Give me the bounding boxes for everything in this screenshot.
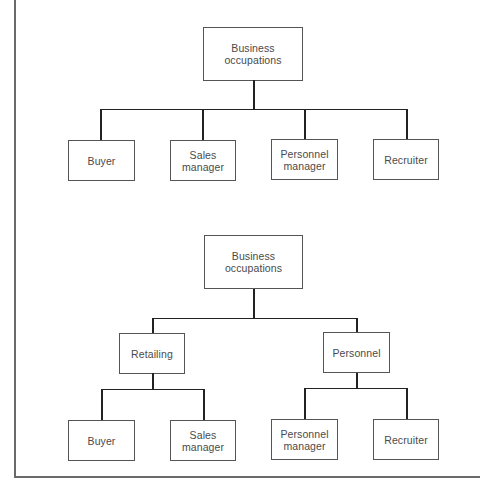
- bottom-leaf-recruiter: Recruiter: [373, 419, 439, 460]
- top-leaf-recruiter: Recruiter: [373, 139, 439, 180]
- frame-left-border: [14, 0, 16, 477]
- retailing-leaf-connector-1: [101, 389, 103, 420]
- top-leaf-label: Sales manager: [182, 149, 224, 173]
- top-leaf-connector-4: [406, 109, 408, 139]
- retailing-branch-line: [101, 389, 204, 391]
- bottom-leaf-label: Sales manager: [182, 429, 224, 453]
- top-root-connector: [253, 80, 255, 110]
- personnel-leaf-connector-1: [304, 388, 306, 419]
- retailing-leaf-connector-2: [203, 389, 205, 420]
- bottom-branch-line: [152, 318, 358, 320]
- bottom-mid-connector-1: [152, 318, 154, 333]
- top-leaf-label: Personnel manager: [280, 148, 328, 172]
- personnel-leaf-connector-2: [406, 388, 408, 419]
- top-leaf-label: Recruiter: [384, 154, 428, 166]
- bottom-root-label: Business occupations: [225, 250, 282, 274]
- top-leaf-label: Buyer: [88, 155, 116, 167]
- top-leaf-sales-manager: Sales manager: [170, 140, 236, 181]
- bottom-mid-retailing: Retailing: [119, 333, 185, 374]
- bottom-mid-label: Retailing: [131, 348, 173, 360]
- top-leaf-buyer: Buyer: [68, 140, 135, 181]
- top-leaf-connector-1: [100, 109, 102, 140]
- bottom-leaf-label: Recruiter: [384, 434, 428, 446]
- top-root-node: Business occupations: [203, 27, 303, 81]
- bottom-root-connector: [253, 289, 255, 319]
- top-leaf-personnel-manager: Personnel manager: [271, 139, 338, 180]
- personnel-branch-line: [304, 388, 408, 390]
- top-leaf-connector-3: [304, 109, 306, 139]
- bottom-mid-label: Personnel: [332, 347, 380, 359]
- frame-bottom-border: [14, 476, 480, 478]
- bottom-mid-connector-2: [356, 318, 358, 333]
- bottom-root-node: Business occupations: [204, 235, 303, 289]
- bottom-leaf-sales-manager: Sales manager: [170, 420, 236, 461]
- retailing-connector: [152, 373, 154, 389]
- bottom-leaf-label: Personnel manager: [280, 428, 328, 452]
- top-branch-line: [100, 109, 408, 111]
- bottom-leaf-personnel-manager: Personnel manager: [271, 419, 338, 460]
- bottom-mid-personnel: Personnel: [323, 332, 390, 373]
- top-leaf-connector-2: [202, 109, 204, 140]
- bottom-leaf-buyer: Buyer: [68, 420, 135, 461]
- bottom-leaf-label: Buyer: [88, 435, 116, 447]
- top-root-label: Business occupations: [224, 42, 281, 66]
